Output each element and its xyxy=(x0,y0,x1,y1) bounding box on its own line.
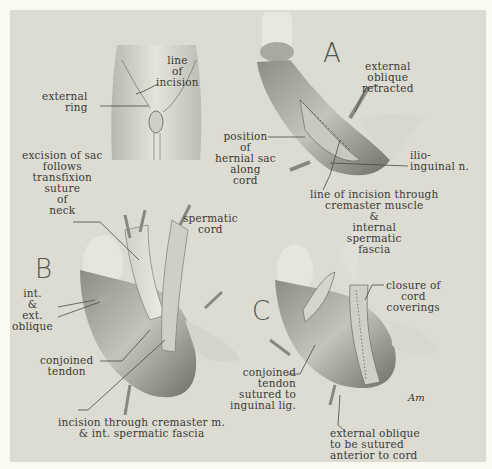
label-line-of-incision: line of incision xyxy=(156,55,199,88)
label-external-ring: external ring xyxy=(42,91,88,113)
panel-letter-b: B xyxy=(35,256,52,282)
label-position-of-hernial-sac: position of hernial sac along cord xyxy=(215,131,276,186)
label-int-ext-oblique: int. & ext. oblique xyxy=(12,288,53,332)
label-external-oblique-retracted: external oblique retracted xyxy=(362,61,414,94)
panel-b-drawing xyxy=(80,205,240,415)
panel-letter-a: A xyxy=(323,40,341,66)
label-conjoined-tendon: conjoined tendon xyxy=(40,355,93,377)
label-line-of-incision-through-cremaster: line of incision through cremaster muscl… xyxy=(310,189,438,255)
label-conjoined-tendon-sutured: conjoined tendon sutured to inguinal lig… xyxy=(230,367,296,411)
panel-letter-c: C xyxy=(252,298,270,324)
label-external-oblique-to-be-sutured: external oblique to be sutured anterior … xyxy=(330,428,420,461)
label-ilio-inguinal-nerve: ilio- inguinal n. xyxy=(410,150,469,172)
label-excision-of-sac: excision of sac follows transfixion sutu… xyxy=(22,150,103,216)
artist-signature: Am xyxy=(408,392,425,403)
label-spermatic-cord: spermatic cord xyxy=(183,213,238,235)
label-incision-through-cremaster: incision through cremaster m. & int. spe… xyxy=(58,417,225,439)
label-closure-of-cord-coverings: closure of cord coverings xyxy=(386,280,441,313)
